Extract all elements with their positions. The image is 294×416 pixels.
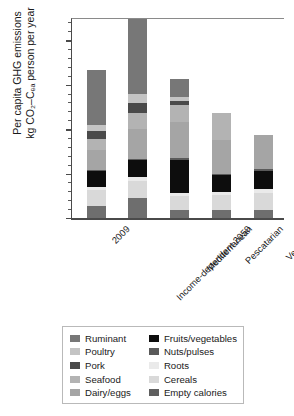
bar-segment-fruits-vegetables	[128, 160, 147, 177]
bar-segment-ruminant	[128, 19, 147, 94]
bar-income-dependent-2050[interactable]	[128, 19, 147, 218]
y-axis-title-line2: kg CO₂–Cₑₐ person per year	[24, 7, 36, 139]
y-axis-title: Per capita GHG emissionskg CO₂–Cₑₐ perso…	[11, 0, 37, 173]
bar-segment-ruminant	[87, 70, 106, 125]
legend-item[interactable]: Poultry	[70, 346, 139, 359]
legend-item-label: Empty calories	[164, 387, 227, 398]
legend-item-label: Cereals	[164, 374, 197, 385]
x-axis-label-vegetarian: Vegetarian	[284, 224, 294, 263]
bar-segment-seafood	[128, 113, 147, 129]
legend-item[interactable]: Seafood	[70, 373, 139, 386]
bar-segment-seafood	[87, 139, 106, 151]
bar-segment-fruits-vegetables	[254, 171, 273, 189]
legend-swatch-icon	[70, 376, 80, 383]
legend-item-label: Nuts/pulses	[164, 346, 214, 357]
bar-segment-empty-calories	[87, 206, 106, 218]
ghg-emissions-stacked-bar-chart: Per capita GHG emissionskg CO₂–Cₑₐ perso…	[0, 0, 294, 416]
bar-segment-dairy-eggs	[254, 135, 273, 170]
legend-swatch-icon	[149, 335, 159, 342]
bar-segment-dairy-eggs	[212, 140, 231, 173]
legend-swatch-icon	[70, 389, 80, 396]
bar-segment-pork	[128, 103, 147, 112]
bar-segment-dairy-eggs	[128, 129, 147, 159]
legend-item-label: Seafood	[85, 374, 121, 385]
legend-item-label: Ruminant	[85, 333, 126, 344]
legend-item[interactable]: Nuts/pulses	[149, 346, 237, 359]
legend-item[interactable]: Pork	[70, 359, 139, 372]
bars-layer	[71, 18, 284, 218]
legend-swatch-icon	[149, 389, 159, 396]
legend-item[interactable]: Empty calories	[149, 386, 237, 399]
legend-item[interactable]: Fruits/vegetables	[149, 332, 237, 345]
y-axis-title-line1: Per capita GHG emissions	[11, 11, 23, 135]
legend-swatch-icon	[70, 348, 80, 355]
legend-swatch-icon	[70, 335, 80, 342]
bar-segment-empty-calories	[254, 210, 273, 218]
bar-segment-pork	[87, 131, 106, 138]
legend-item[interactable]: Cereals	[149, 373, 237, 386]
legend-item-label: Roots	[164, 360, 189, 371]
bar-segment-empty-calories	[212, 210, 231, 218]
bar-segment-seafood	[212, 113, 231, 141]
legend-item-label: Dairy/eggs	[85, 387, 131, 398]
legend-item-label: Pork	[85, 360, 105, 371]
bar-vegetarian[interactable]	[254, 135, 273, 219]
legend-swatch-icon	[149, 362, 159, 369]
bar-segment-cereals	[87, 190, 106, 206]
legend-column-right: Fruits/vegetablesNuts/pulsesRootsCereals…	[149, 332, 237, 399]
bar-pescatarian[interactable]	[212, 113, 231, 218]
bar-segment-poultry	[87, 125, 106, 132]
bar-segment-cereals	[212, 195, 231, 210]
legend-item[interactable]: Roots	[149, 359, 237, 372]
bar-segment-fruits-vegetables	[170, 160, 189, 193]
x-axis-label-mediterranean: Mediterranean	[205, 224, 254, 273]
bar-segment-fruits-vegetables	[87, 171, 106, 187]
legend-item[interactable]: Ruminant	[70, 332, 139, 345]
legend: RuminantPoultryPorkSeafoodDairy/eggs Fru…	[62, 326, 244, 404]
bar-segment-empty-calories	[128, 198, 147, 218]
bar-segment-empty-calories	[170, 210, 189, 218]
legend-item-label: Fruits/vegetables	[164, 333, 237, 344]
legend-swatch-icon	[149, 348, 159, 355]
bar-2009[interactable]	[87, 70, 106, 218]
legend-item[interactable]: Dairy/eggs	[70, 386, 139, 399]
bar-segment-cereals	[254, 193, 273, 211]
legend-column-left: RuminantPoultryPorkSeafoodDairy/eggs	[70, 332, 139, 399]
x-axis-label-2009: 2009	[110, 224, 132, 246]
legend-item-label: Poultry	[85, 346, 115, 357]
bar-segment-cereals	[170, 196, 189, 210]
bar-segment-poultry	[128, 94, 147, 103]
bar-segment-dairy-eggs	[170, 122, 189, 158]
x-axis-line	[71, 218, 284, 220]
legend-swatch-icon	[149, 376, 159, 383]
bar-segment-ruminant	[170, 79, 189, 98]
bar-segment-cereals	[128, 181, 147, 198]
bar-segment-fruits-vegetables	[212, 175, 231, 192]
bar-segment-seafood	[170, 105, 189, 122]
bar-mediterranean[interactable]	[170, 79, 189, 218]
legend-swatch-icon	[70, 362, 80, 369]
bar-segment-dairy-eggs	[87, 150, 106, 170]
